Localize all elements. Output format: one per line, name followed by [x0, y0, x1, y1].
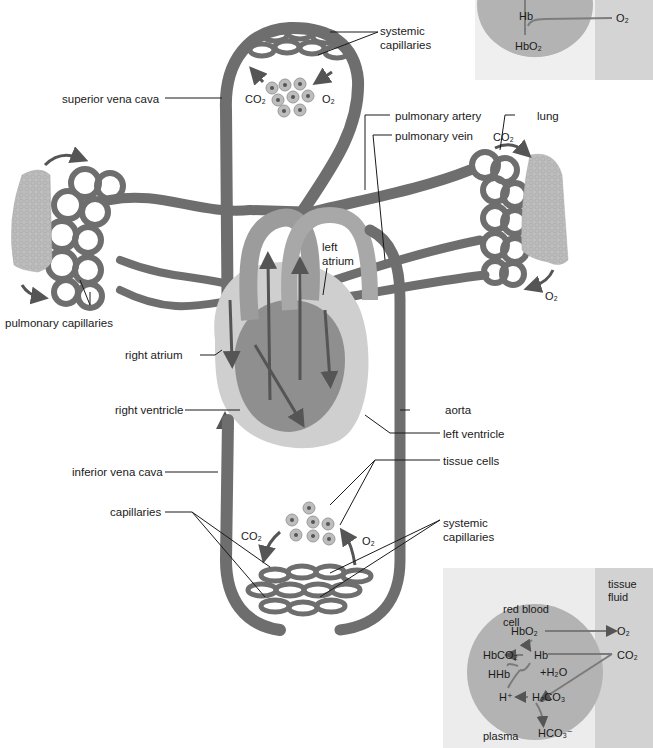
inset-top-hbo2: HbO₂: [515, 40, 542, 53]
label-pulmonary-artery: pulmonary artery: [395, 109, 481, 123]
label-superior-vena-cava: superior vena cava: [62, 92, 159, 106]
label-line: tissue: [608, 578, 637, 591]
inset-hbo2: HbO₂: [511, 625, 538, 638]
label-line: capillaries: [380, 38, 431, 52]
inset-hbco2: HbCO₂: [483, 649, 518, 662]
inset-hhb: HHb: [488, 668, 510, 681]
label-left-ventricle: left ventricle: [443, 427, 504, 441]
label-pulmonary-vein: pulmonary vein: [395, 129, 473, 143]
inset-top-o2: O₂: [616, 12, 629, 25]
label-pulmonary-capillaries: pulmonary capillaries: [5, 316, 113, 330]
label-line: systemic: [443, 516, 494, 530]
label-tissue-cells: tissue cells: [443, 454, 499, 468]
label-co2-bottom: CO₂: [241, 530, 262, 543]
inset-plus-h2o: +H₂O: [540, 666, 567, 679]
label-line: red blood: [503, 603, 549, 616]
label-right-ventricle: right ventricle: [115, 403, 183, 417]
inset-o2: O₂: [617, 625, 630, 638]
label-line: systemic: [380, 24, 431, 38]
lung-left: [11, 170, 52, 272]
label-o2-top: O₂: [322, 93, 335, 106]
label-o2-bottom: O₂: [362, 535, 375, 548]
label-o2-lung: O₂: [545, 290, 558, 303]
label-line: left: [322, 240, 354, 254]
inset-tissue-fluid: tissue fluid: [608, 578, 637, 604]
inset-co2: CO₂: [617, 649, 638, 662]
lung-right: [522, 154, 568, 264]
label-line: capillaries: [443, 530, 494, 544]
inset-top-hb: Hb: [519, 10, 533, 23]
label-left-atrium: left atrium: [322, 240, 354, 268]
label-line: atrium: [322, 254, 354, 268]
label-co2-top: CO₂: [245, 93, 266, 106]
inset-h2co3: H₂CO₃: [532, 691, 565, 704]
label-right-atrium: right atrium: [125, 348, 183, 362]
label-inferior-vena-cava: inferior vena cava: [72, 465, 163, 479]
inset-hco3: HCO₃⁻: [538, 727, 573, 740]
label-systemic-capillaries-top: systemic capillaries: [380, 24, 431, 52]
inset-hb: Hb: [534, 649, 548, 662]
label-co2-lung: CO₂: [493, 131, 514, 144]
inset-h-plus: H⁺: [499, 691, 513, 704]
label-lung: lung: [537, 109, 559, 123]
label-systemic-capillaries-bottom: systemic capillaries: [443, 516, 494, 544]
label-capillaries: capillaries: [110, 505, 161, 519]
label-aorta: aorta: [445, 403, 471, 417]
inset-plasma: plasma: [483, 730, 518, 743]
label-line: fluid: [608, 591, 637, 604]
